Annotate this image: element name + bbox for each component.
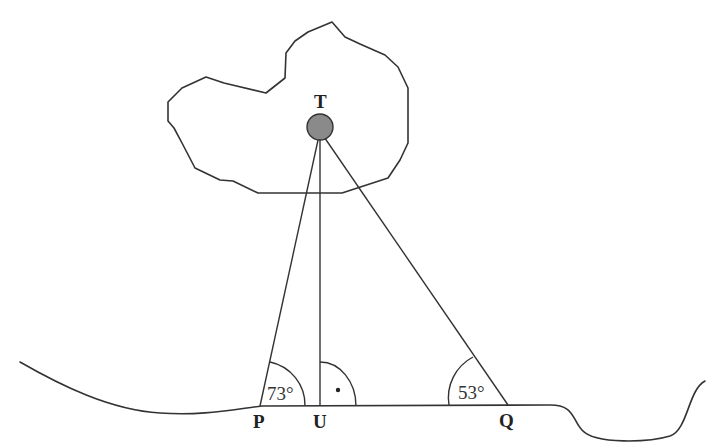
angle-label-Q: 53° xyxy=(458,382,485,403)
label-T: T xyxy=(314,91,327,112)
right-angle-dot xyxy=(336,388,340,392)
island-outline xyxy=(168,22,408,193)
point-T-marker xyxy=(307,114,333,140)
diagram-canvas: T P U Q 73° 53° xyxy=(0,0,721,447)
segment-TQ xyxy=(320,131,508,405)
segment-TP xyxy=(260,131,320,406)
label-P: P xyxy=(253,411,265,432)
label-Q: Q xyxy=(499,410,514,431)
angle-arc-U xyxy=(320,362,356,406)
angle-label-P: 73° xyxy=(267,383,294,404)
coastline xyxy=(20,362,705,441)
label-U: U xyxy=(313,411,327,432)
